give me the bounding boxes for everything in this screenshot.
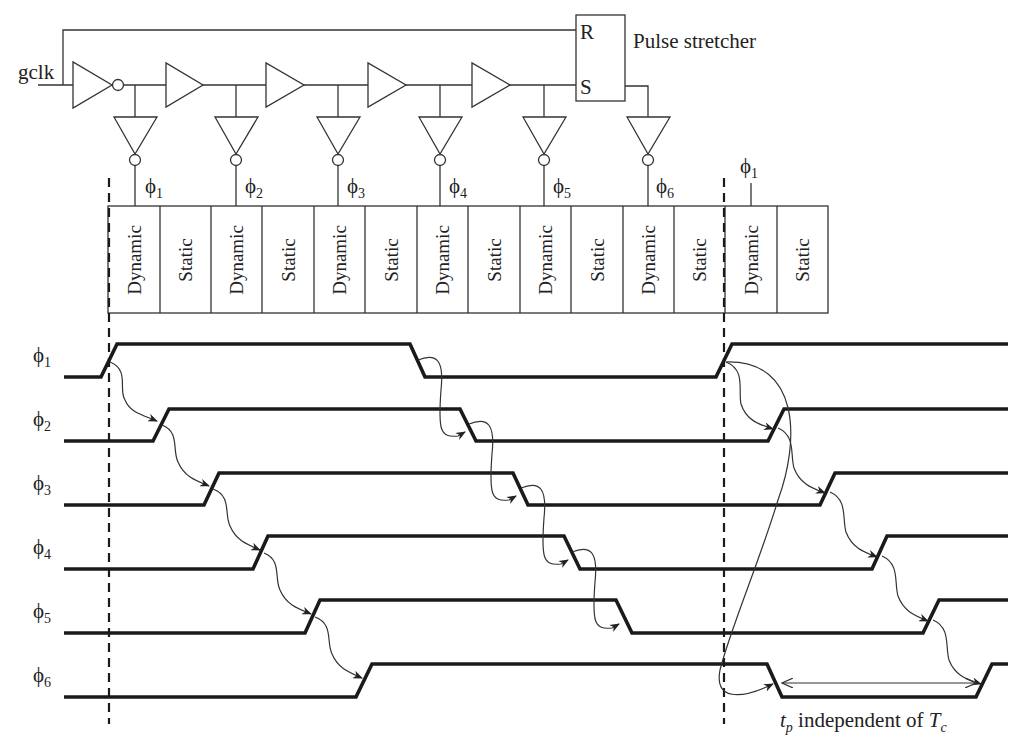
stage-cell-static: Static [278,238,299,281]
waveform-phi2 [64,409,1008,441]
buffer-icon [472,63,510,107]
causality-arrow [469,421,516,500]
causality-arrow [933,620,981,684]
tap-label: ϕ6 [656,174,674,201]
causality-arrow [264,553,311,614]
causality-arrow [213,489,260,550]
stretcher-output-wire [625,86,648,117]
signal-label: ϕ5 [33,599,51,626]
inverter-bubble-icon [113,80,124,91]
waveform-phi3 [64,473,1008,505]
stage-cell-dynamic: Dynamic [741,225,762,295]
buffer-icon [266,63,304,107]
tap-inverter-icon [523,117,566,154]
tap-1: ϕ1 [114,85,163,206]
reset-pin-label: R [580,20,594,44]
tap-2: ϕ2 [215,85,263,206]
tap-inverter-icon [114,117,157,154]
stage-cell-dynamic: Dynamic [226,225,247,295]
inverter-bubble-icon [231,155,242,166]
gclk-label: gclk [18,60,55,84]
inverter-bubble-icon [130,155,141,166]
signal-label: ϕ2 [33,407,51,434]
waveform-phi5 [64,600,1008,633]
pulse-stretcher-feedback-arrow [719,362,791,695]
stage-cell-dynamic: Dynamic [329,225,350,295]
next-cycle-tap: ϕ1 [740,154,758,206]
waveform-phi6 [64,664,1008,697]
buffer-icon [368,63,406,107]
stage-cell-static: Static [587,238,608,281]
causality-arrow [882,556,928,621]
causality-arrow [778,428,825,493]
tap-label: ϕ1 [145,174,163,201]
tap-inverter-icon [419,117,462,154]
causality-arrow [110,362,157,421]
tap-3: ϕ3 [317,85,365,206]
stage-cell-dynamic: Dynamic [535,225,556,295]
signal-label: ϕ3 [33,471,51,498]
stage-cell-static: Static [175,238,196,281]
inverter-bubble-icon [333,155,344,166]
tap-label: ϕ1 [740,154,758,181]
inverter-bubble-icon [539,155,550,166]
pipeline-stages: Dynamic Static Dynamic Static Dynamic St… [108,206,828,313]
causality-arrow [162,425,209,486]
causality-arrow [315,617,362,678]
pulse-width-annotation: tp independent of Tc [780,708,947,735]
waveform-phi1 [64,344,1008,377]
tap-inverter-icon [627,117,670,154]
stage-cell-dynamic: Dynamic [432,225,453,295]
signal-label: ϕ1 [33,343,51,370]
tap-label: ϕ5 [553,174,571,201]
stage-cell-static: Static [484,238,505,281]
tap-label: ϕ2 [245,174,263,201]
skew-tolerant-domino-clock-diagram: gclk R S Pulse stretcher ϕ1 [0,0,1024,749]
causality-arrow [418,357,465,436]
feedback-wire [63,30,576,85]
buffer-icon [166,63,203,107]
signal-label: ϕ6 [33,663,51,690]
inverter-bubble-icon [643,155,654,166]
stage-cell-dynamic: Dynamic [638,225,659,295]
tap-5: ϕ5 [523,85,571,206]
input-inverter-icon [73,62,112,108]
set-pin-label: S [580,75,592,99]
clock-chain-circuit: gclk R S Pulse stretcher ϕ1 [18,15,758,206]
pulse-stretcher-label: Pulse stretcher [633,29,756,53]
tap-inverter-icon [317,117,360,154]
tap-4: ϕ4 [419,85,467,206]
tap-label: ϕ3 [347,174,365,201]
tap-label: ϕ4 [449,174,467,201]
stage-cell-static: Static [381,238,402,281]
stage-cell-dynamic: Dynamic [124,225,145,295]
signal-label: ϕ4 [33,535,51,562]
stage-cell-static: Static [792,238,813,281]
timing-diagram: ϕ1 ϕ2 ϕ3 ϕ4 ϕ5 ϕ6 tp ind [33,343,1008,735]
stage-cell-static: Static [689,238,710,281]
causality-arrow [830,492,877,557]
inverter-bubble-icon [435,155,446,166]
causality-arrow [521,485,568,564]
tap-inverter-icon [215,117,258,154]
tap-6: ϕ6 [627,117,674,206]
causality-arrow [572,549,619,628]
